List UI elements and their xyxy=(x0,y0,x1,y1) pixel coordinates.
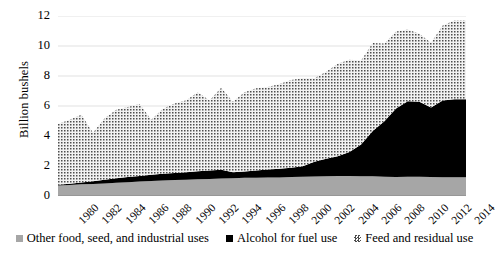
x-axis-tick-label-1996: 1996 xyxy=(263,202,287,226)
y-axis-tick-4: 4 xyxy=(28,129,50,142)
stipple-square-icon xyxy=(354,235,361,242)
y-axis-tick-10: 10 xyxy=(28,39,50,52)
x-axis-tick-label-1990: 1990 xyxy=(193,202,217,226)
y-axis-tick-12: 12 xyxy=(28,9,50,22)
y-axis-tick-2: 2 xyxy=(28,159,50,172)
plot-svg xyxy=(58,16,466,196)
x-axis-tick-label-1982: 1982 xyxy=(100,202,124,226)
legend-label-1: Alcohol for fuel use xyxy=(237,232,337,245)
gray-square-icon xyxy=(16,235,23,242)
x-axis-tick-label-1980: 1980 xyxy=(77,202,101,226)
x-axis-tick-label-2010: 2010 xyxy=(426,202,450,226)
x-axis-tick-label-1998: 1998 xyxy=(287,202,311,226)
x-axis-tick-label-1986: 1986 xyxy=(147,202,171,226)
x-axis-tick-label-2012: 2012 xyxy=(450,202,474,226)
x-axis-tick-label-1994: 1994 xyxy=(240,202,264,226)
x-axis-tick-label-2000: 2000 xyxy=(310,202,334,226)
legend-entry-2[interactable]: Feed and residual use xyxy=(354,232,473,245)
plot-area xyxy=(58,16,466,196)
y-axis-tick-8: 8 xyxy=(28,69,50,82)
y-axis-tick-0: 0 xyxy=(28,189,50,202)
legend-label-0: Other food, seed, and industrial uses xyxy=(27,232,209,245)
series-layers xyxy=(58,21,466,197)
chart-legend: Other food, seed, and industrial usesAlc… xyxy=(0,232,489,245)
x-axis-tick-label-2008: 2008 xyxy=(403,202,427,226)
legend-entry-0[interactable]: Other food, seed, and industrial uses xyxy=(16,232,209,245)
x-axis-tick-label-2002: 2002 xyxy=(333,202,357,226)
legend-label-2: Feed and residual use xyxy=(365,232,473,245)
x-axis-tick-label-2004: 2004 xyxy=(357,202,381,226)
x-axis-tick-label-1988: 1988 xyxy=(170,202,194,226)
black-square-icon xyxy=(226,235,233,242)
x-axis-tick-label-2006: 2006 xyxy=(380,202,404,226)
legend-entry-1[interactable]: Alcohol for fuel use xyxy=(226,232,337,245)
y-axis-tick-6: 6 xyxy=(28,99,50,112)
x-axis-tick-label-1992: 1992 xyxy=(217,202,241,226)
x-axis-tick-label-1984: 1984 xyxy=(123,202,147,226)
x-axis-tick-label-2014: 2014 xyxy=(473,202,497,226)
